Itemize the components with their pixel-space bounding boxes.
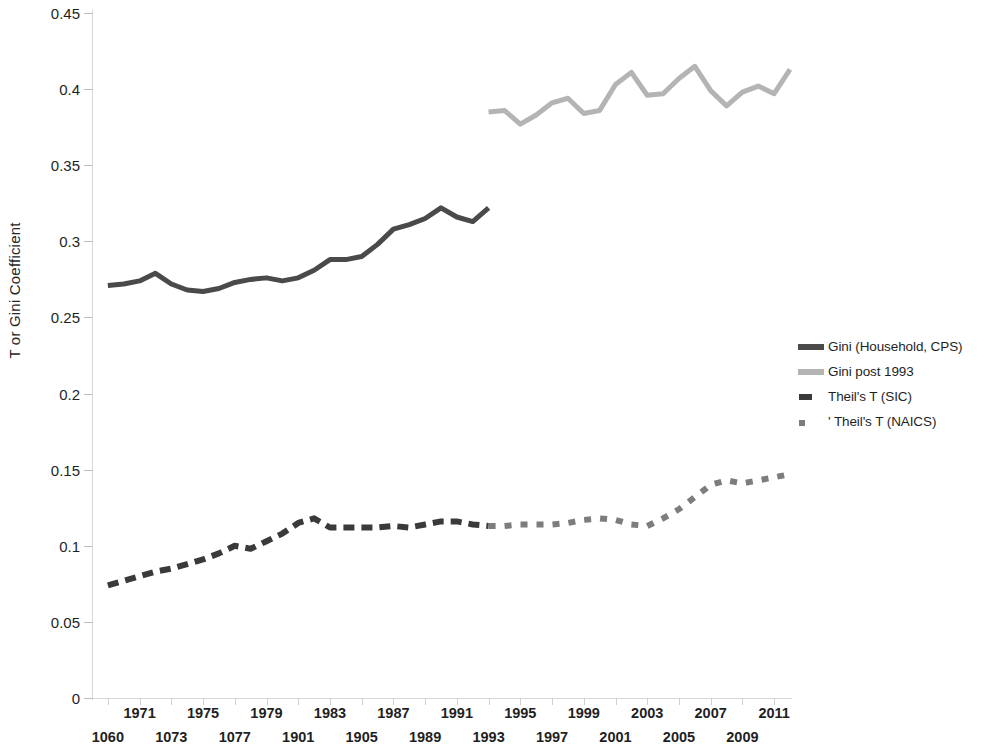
- legend-label: Theil's T (SIC): [828, 389, 912, 404]
- x-tick-label: 1971: [123, 705, 155, 721]
- x-tick-label: 2003: [631, 705, 663, 721]
- x-tick-label: 1905: [346, 729, 378, 745]
- y-tick-label: 0.05: [22, 613, 80, 630]
- x-tick-mark: [267, 698, 268, 705]
- legend-label: Gini (Household, CPS): [828, 339, 962, 354]
- y-tick-mark: [84, 13, 93, 14]
- x-tick-label: 2005: [663, 729, 695, 745]
- y-tick-label: 0.1: [22, 537, 80, 554]
- x-tick-mark: [552, 698, 553, 705]
- x-tick-label: 1987: [377, 705, 409, 721]
- x-tick-mark: [457, 698, 458, 705]
- x-tick-label: 1073: [155, 729, 187, 745]
- y-tick-mark: [84, 317, 93, 318]
- y-tick-mark: [84, 165, 93, 166]
- y-axis-title: T or Gini Coefficient: [6, 191, 23, 391]
- y-tick-mark: [84, 241, 93, 242]
- x-tick-mark: [108, 698, 109, 705]
- x-tick-mark: [774, 698, 775, 705]
- x-tick-label: 1060: [92, 729, 124, 745]
- series-line: [108, 208, 489, 292]
- x-tick-mark: [393, 698, 394, 705]
- y-tick-mark: [84, 89, 93, 90]
- x-tick-label: 1997: [536, 729, 568, 745]
- series-line: [489, 474, 790, 526]
- y-tick-mark: [84, 622, 93, 623]
- y-tick-mark: [84, 394, 93, 395]
- chart-container: T or Gini Coefficient 0.450.40.350.30.25…: [0, 0, 989, 756]
- series-line: [489, 66, 790, 124]
- legend-label: Gini post 1993: [828, 364, 914, 379]
- x-tick-mark: [520, 698, 521, 705]
- legend-swatch-icon: [798, 340, 824, 354]
- x-tick-mark: [140, 698, 141, 705]
- x-tick-mark: [298, 698, 299, 705]
- x-tick-mark: [616, 698, 617, 705]
- x-tick-label: 1995: [504, 705, 536, 721]
- x-tick-label: 2009: [726, 729, 758, 745]
- y-tick-mark: [84, 546, 93, 547]
- x-tick-mark: [489, 698, 490, 705]
- x-tick-label: 1989: [409, 729, 441, 745]
- legend-swatch-icon: [798, 390, 824, 404]
- y-axis-line: [92, 10, 93, 700]
- x-tick-mark: [235, 698, 236, 705]
- x-tick-label: 1991: [441, 705, 473, 721]
- x-tick-label: 1979: [250, 705, 282, 721]
- x-axis-line: [92, 698, 792, 699]
- legend-label: ' Theil's T (NAICS): [828, 414, 936, 429]
- x-tick-mark: [584, 698, 585, 705]
- legend-item[interactable]: Theil's T (SIC): [798, 384, 988, 409]
- y-tick-label: 0.45: [22, 5, 80, 22]
- legend-item[interactable]: Gini (Household, CPS): [798, 334, 988, 359]
- legend-item[interactable]: Gini post 1993: [798, 359, 988, 384]
- y-tick-label: 0.25: [22, 309, 80, 326]
- y-tick-label: 0.3: [22, 233, 80, 250]
- y-tick-label: 0.35: [22, 157, 80, 174]
- legend-item[interactable]: ' Theil's T (NAICS): [798, 409, 988, 434]
- x-tick-label: 1901: [282, 729, 314, 745]
- x-tick-label: 1993: [472, 729, 504, 745]
- y-tick-mark: [84, 698, 93, 699]
- series-line: [108, 518, 489, 585]
- y-tick-label: 0.2: [22, 385, 80, 402]
- legend-swatch-icon: [798, 415, 824, 429]
- x-tick-mark: [330, 698, 331, 705]
- x-tick-mark: [203, 698, 204, 705]
- x-tick-mark: [171, 698, 172, 705]
- y-tick-mark: [84, 470, 93, 471]
- y-tick-label: 0.15: [22, 461, 80, 478]
- x-tick-mark: [711, 698, 712, 705]
- x-tick-mark: [362, 698, 363, 705]
- y-axis-tick-labels: 0.450.40.350.30.250.20.150.10.050: [22, 0, 80, 756]
- legend-swatch-icon: [798, 365, 824, 379]
- x-tick-label: 1975: [187, 705, 219, 721]
- x-tick-label: 2007: [695, 705, 727, 721]
- x-tick-label: 1077: [219, 729, 251, 745]
- x-tick-mark: [647, 698, 648, 705]
- x-tick-label: 2001: [599, 729, 631, 745]
- x-tick-mark: [425, 698, 426, 705]
- x-tick-mark: [679, 698, 680, 705]
- x-tick-mark: [742, 698, 743, 705]
- y-tick-label: 0: [22, 690, 80, 707]
- y-tick-label: 0.4: [22, 81, 80, 98]
- chart-legend: Gini (Household, CPS)Gini post 1993Theil…: [798, 334, 988, 434]
- x-tick-label: 2011: [758, 705, 789, 721]
- x-tick-label: 1983: [314, 705, 346, 721]
- x-tick-label: 1999: [568, 705, 600, 721]
